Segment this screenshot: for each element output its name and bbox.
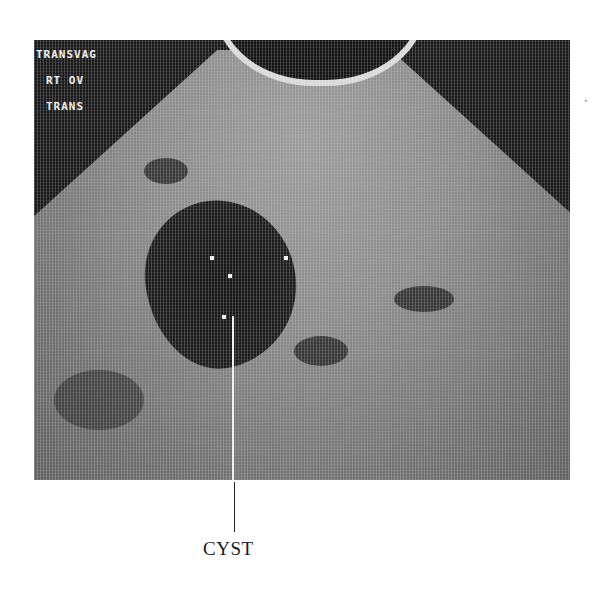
dark-structure — [394, 286, 454, 312]
caliper-marker — [284, 256, 288, 260]
label-leader-line — [234, 482, 235, 532]
plane-text: TRANS — [46, 96, 84, 117]
dark-structure — [144, 158, 188, 184]
stray-mark: ` — [584, 98, 588, 113]
dark-structure — [54, 370, 144, 430]
dark-structure — [294, 336, 348, 366]
side-text: RT OV — [46, 70, 84, 91]
pointer-line — [232, 316, 234, 480]
caliper-marker — [228, 274, 232, 278]
caliper-marker — [222, 315, 226, 319]
scan-mode-text: TRANSVAG — [36, 44, 97, 65]
cyst-label: CYST — [203, 538, 254, 560]
ultrasound-image: TRANSVAG RT OV TRANS — [34, 40, 570, 480]
caliper-marker — [210, 256, 214, 260]
